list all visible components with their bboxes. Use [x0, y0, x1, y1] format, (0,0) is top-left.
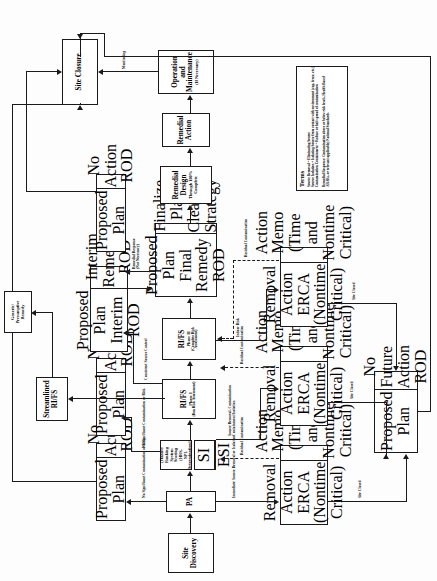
ppna2-left: Proposed Plan: [97, 373, 125, 435]
memo3-t2: (Time and: [287, 205, 321, 261]
arrow-pa-noaction1: [126, 499, 131, 505]
node-rifs-phase2: RI/FS Phase II (Complete Risk Assessment…: [162, 318, 216, 360]
edge-src-removal-v: [216, 439, 260, 440]
terms-line-5: ARARs, or relevant applicable) National …: [326, 70, 330, 187]
esi-cell: ESI: [214, 441, 234, 469]
edge-removal2-closed-h2: [386, 427, 387, 459]
edge-si-noaction2-h: [131, 417, 132, 452]
edge-noaction3-closure-h: [26, 72, 27, 192]
ppnf-left: Proposed Plan: [375, 390, 417, 452]
edge-src-removal-v2: [260, 388, 275, 389]
removal1-t1: Removal Action: [262, 462, 296, 523]
node-pp-interim-rod: Proposed Plan Interim ROD Interim Remedi…: [90, 266, 128, 352]
si-cell: SI: [195, 441, 214, 469]
node-generic-presumptive-remedy: Generic/ Presumptive Remedy: [4, 291, 32, 333]
node-removal-action-3: Removal Action ERCA (Nontime Critical) A…: [280, 247, 328, 327]
node-si-esi: SI ESI: [194, 440, 216, 470]
edge-removal3-closed-v: [328, 303, 396, 304]
ppna3-left: Proposed Plan: [97, 189, 125, 251]
edge-bus-right-v: [80, 33, 104, 34]
arrow-removal3-nofuture: [393, 366, 399, 371]
node-remedial-design: Remedial Design Through 100% Complete: [160, 166, 212, 204]
removal2-t1: Removal Action: [262, 363, 296, 424]
om-line1: Operation and: [172, 52, 187, 92]
edge-to-streamlined: [73, 398, 165, 399]
node-removal-action-2: Removal Action ERCA (Nontime Critical) A…: [280, 346, 328, 426]
ppfinal-line2: Final Remedy: [178, 235, 212, 295]
rifs1-line3: (Don Risk Assessment): [193, 382, 197, 417]
streamlined-line2: RI/FS: [52, 390, 60, 408]
arrow-pa-hrs: [187, 471, 193, 476]
edge-rd-ra: [190, 152, 191, 166]
ppna1-left-label: Proposed Plan: [94, 459, 128, 519]
terms-line-2: Contamination Containment = Reduce or ha…: [315, 70, 319, 187]
ppna3-left-label: Proposed Plan: [94, 190, 128, 250]
arrow-noaction3-closure: [57, 69, 62, 75]
edge-om-closure: [103, 71, 158, 72]
edge-removal3-closed-h: [396, 303, 397, 366]
edge-nofuture-bus-v2: [104, 56, 430, 57]
edge-indoor-risk-h: [266, 289, 267, 341]
label-source-removal-containment: Source Removal, Contamination Containmen…: [228, 378, 237, 436]
arrow-indoor-risk: [274, 287, 279, 293]
arrow-noaction-bus-closure: [77, 105, 83, 110]
edge-bus-into-closure: [80, 103, 81, 105]
edge-residual-contam-3-h: [233, 260, 234, 339]
node-rifs-phase1: RI/FS Phase I (Don Risk Assessment): [162, 379, 216, 419]
edge-noaction3-closure-v: [26, 191, 96, 192]
edge-ppfinal-rd: [190, 209, 191, 223]
arrow-residual-contam-3: [217, 336, 222, 342]
terms-legend: Terms Source Removal = Eliminating Sourc…: [296, 66, 348, 191]
arrow-to-streamlined: [68, 396, 73, 402]
ra-line1: Remedial Action: [178, 115, 193, 145]
site-closure-label: Site Closure: [76, 53, 84, 90]
node-remedial-action: Remedial Action: [162, 113, 210, 147]
arrow-rifs1-interim: [123, 330, 128, 336]
edge-nofuture-bus-h: [430, 56, 431, 412]
removal2-t3: (Nontime Critical): [312, 363, 346, 424]
removal2-t2: ERCA: [296, 372, 313, 415]
edge-ra-om: [190, 99, 191, 113]
arrow-src-removal: [274, 386, 279, 392]
edge-noaction-bus-down: [12, 104, 80, 105]
edge-removal1-closed-v: [328, 501, 406, 502]
label-monitoring: Monitoring: [122, 51, 126, 69]
arrow-residual-contam-2: [220, 365, 225, 371]
si-label: SI: [196, 448, 213, 462]
node-hazard-ranking: (Hazard Ranking System Scoring (HRS, NPL…: [160, 440, 192, 470]
edge-noaction3-closure-v2: [26, 71, 57, 72]
pa-label: PA: [187, 497, 195, 506]
edge-si-noaction2-v2: [126, 417, 132, 418]
edge-interim-down: [128, 288, 148, 289]
removal1-left: Removal Action ERCA (Nontime Critical): [281, 461, 327, 524]
removal3-t3: (Nontime Critical): [312, 264, 346, 325]
edge-discovery-pa: [190, 517, 191, 533]
edge-rifs1-rifs2: [190, 365, 191, 379]
memo3-t1: Action Memo: [254, 205, 288, 261]
arrow-rd-ra: [187, 148, 193, 153]
removal1-t2: ERCA: [296, 471, 313, 514]
ppnf-r1: No Future: [362, 345, 396, 389]
label-indoor-risk: Indoor Risk: [236, 318, 240, 337]
arrow-remedial-response-up: [125, 269, 130, 275]
node-pp-no-action-1: Proposed Plan No Action ROD: [96, 443, 126, 521]
edge-bus-right-join: [104, 33, 105, 57]
edge-indoor-risk-v: [216, 340, 266, 341]
arrow-pa-removal1: [274, 499, 279, 505]
node-pp-no-future-action: Proposed Plan No Future Action ROD: [374, 371, 418, 453]
edge-noaction1-bus-v: [12, 481, 96, 482]
edge-remedial-response-up: [130, 271, 155, 272]
ppna3-right: No Action ROD: [97, 143, 125, 190]
edge-removal2-closed-v: [328, 402, 386, 403]
ppinterim-left: Proposed Plan Interim ROD: [91, 289, 127, 351]
edge-rifs2-ppfinal: [190, 302, 191, 318]
removal2-left: Removal Action ERCA (Nontime Critical): [281, 362, 327, 425]
arrow-om-closure: [98, 69, 103, 75]
node-removal-action-1: Removal Action ERCA (Nontime Critical) A…: [280, 445, 328, 525]
arrow-discovery-pa: [187, 513, 193, 518]
label-residual-contamination-2: Residual Contamination: [240, 326, 244, 364]
label-site-closed-1: Site Closed: [358, 480, 362, 498]
memo3-t3: Nontime Critical): [321, 205, 355, 261]
node-site-discovery: Site Discovery: [168, 533, 214, 573]
rd-line1: Remedial Design: [173, 168, 188, 202]
